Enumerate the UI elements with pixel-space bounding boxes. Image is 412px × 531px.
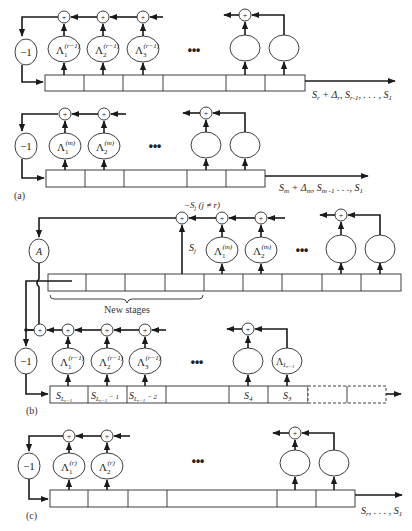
coefficient-multiplier [233, 348, 263, 374]
shift-register-diagram: Sr + Δr, Sr-1, . . . , S1 −1 + Λ1(r−1) +… [0, 0, 412, 531]
svg-text:+: + [339, 211, 344, 220]
coefficient-multiplier [326, 235, 356, 263]
svg-text:+: + [105, 326, 110, 335]
ellipsis: ••• [296, 243, 309, 257]
gain-label: −1 [23, 460, 35, 472]
feedback-label: −Sj (j ≠ r) [184, 200, 220, 211]
panel-label-a: (a) [14, 190, 25, 202]
output-label: Sr, . . . , S1 [361, 505, 402, 518]
gain-label: A [35, 246, 43, 257]
tap-2: + Λ2(m) [72, 108, 126, 170]
tap-n-1: + [183, 107, 221, 170]
feedback-line [22, 17, 58, 36]
coefficient-multiplier [269, 35, 299, 61]
svg-text:+: + [67, 432, 72, 441]
svg-text:+: + [220, 214, 225, 223]
svg-text:+: + [143, 326, 148, 335]
svg-text:+: + [243, 11, 248, 20]
svg-text:+: + [38, 326, 43, 335]
svg-text:+: + [62, 13, 67, 22]
coefficient-multiplier [230, 35, 260, 61]
gain-label: −1 [20, 140, 32, 152]
output-label: Sr + Δr, Sr-1, . . . , S1 [312, 89, 392, 102]
shift-register [46, 170, 265, 187]
svg-text:+: + [246, 325, 251, 334]
gain-label: −1 [20, 46, 32, 58]
svg-text:+: + [259, 214, 264, 223]
shift-register [50, 490, 355, 507]
tap-n-1: + [320, 209, 356, 274]
tap-label-sj: Sj [189, 242, 196, 255]
panel-b-bottom: SLr−1 SLr−1 − 1 SLr−1 − 2 S4 S3 −1 + + Λ… [15, 281, 401, 417]
svg-text:+: + [63, 110, 68, 119]
new-stages-label: New stages [104, 304, 150, 315]
tap-1: + Λ1(r) [53, 430, 85, 490]
tap-1: + Λ1(r−1) [48, 11, 81, 75]
panel-label-b: (b) [26, 405, 38, 417]
panel-a-bottom: Sm + Δm, Sm -1 . . ., S1 −1 + Λ1(m) + Λ2… [14, 107, 368, 202]
ellipsis: ••• [191, 355, 204, 369]
gain-label: −1 [20, 355, 32, 367]
shift-register [45, 75, 305, 91]
panel-b-top: New stages A + −Sj (j ≠ r) Sj + Λ1(m) + … [29, 200, 401, 335]
tap-2: + Λ2(r) [76, 430, 130, 490]
panel-a-top: Sr + Δr, Sr-1, . . . , S1 −1 + Λ1(r−1) +… [15, 9, 395, 102]
coefficient-multiplier [365, 235, 395, 263]
coefficient-multiplier [280, 450, 310, 476]
panel-label-c: (c) [26, 510, 37, 522]
svg-text:+: + [180, 214, 185, 223]
coefficient-multiplier [230, 132, 260, 158]
feed-in-line [22, 65, 43, 82]
coefficient-multiplier [191, 132, 221, 158]
tap-1: + Λ1(r−1) [47, 324, 85, 386]
svg-text:+: + [105, 432, 110, 441]
new-stages-brace [50, 295, 203, 303]
tap-1: + Λ1(m) [49, 108, 81, 170]
svg-text:+: + [293, 429, 298, 438]
shift-register [48, 274, 401, 291]
ellipsis: ••• [149, 139, 162, 153]
panel-c: Sr, . . . , S1 −1 + Λ1(r) + Λ2(r) ••• + [18, 427, 402, 522]
ellipsis: ••• [188, 43, 201, 57]
output-label: Sm + Δm, Sm -1 . . ., S1 [279, 182, 363, 195]
ellipsis: ••• [192, 454, 205, 468]
coefficient-multiplier [319, 450, 349, 476]
tap-2: + Λ2(m) [229, 212, 285, 274]
svg-text:+: + [204, 109, 209, 118]
tap-1: + Λ1(m) [189, 212, 238, 274]
svg-text:+: + [66, 326, 71, 335]
tap-n-1: + [224, 9, 260, 75]
svg-text:+: + [141, 13, 146, 22]
svg-text:+: + [102, 110, 107, 119]
svg-text:+: + [101, 13, 106, 22]
tap-n-1: + [227, 323, 263, 386]
tap-n-1: + [273, 427, 310, 490]
